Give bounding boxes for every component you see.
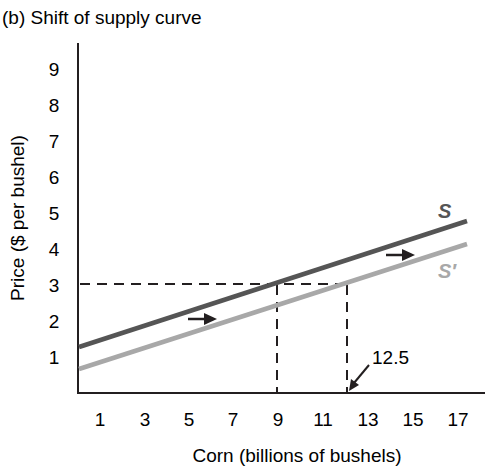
y-tick-6: 6 bbox=[49, 167, 60, 188]
y-tick-labels: 1 2 3 4 5 6 7 8 9 bbox=[49, 59, 60, 368]
shift-arrow-left bbox=[188, 313, 217, 325]
x-axis-label: Corn (billions of bushels) bbox=[192, 445, 401, 466]
y-tick-5: 5 bbox=[49, 203, 60, 224]
arrow-down-left-icon bbox=[349, 379, 359, 391]
y-tick-9: 9 bbox=[49, 59, 60, 80]
shift-arrow-right bbox=[386, 249, 415, 261]
x-tick-17: 17 bbox=[447, 409, 468, 430]
s-prime-curve-label: S′ bbox=[438, 260, 457, 282]
x-tick-13: 13 bbox=[357, 409, 378, 430]
y-tick-8: 8 bbox=[49, 95, 60, 116]
y-axis-label: Price ($ per bushel) bbox=[7, 135, 28, 301]
y-tick-3: 3 bbox=[49, 275, 60, 296]
y-tick-1: 1 bbox=[49, 347, 60, 368]
x-tick-7: 7 bbox=[228, 409, 239, 430]
supply-shift-chart: (b) Shift of supply curve Price ($ per b… bbox=[0, 0, 491, 475]
x-tick-11: 11 bbox=[313, 409, 333, 430]
annotation-12-5: 12.5 bbox=[372, 347, 409, 368]
y-tick-4: 4 bbox=[49, 239, 60, 260]
x-tick-1: 1 bbox=[95, 409, 106, 430]
y-tick-2: 2 bbox=[49, 311, 60, 332]
y-tick-7: 7 bbox=[49, 131, 60, 152]
x-tick-15: 15 bbox=[402, 409, 423, 430]
x-tick-labels: 1 3 5 7 9 11 13 15 17 bbox=[95, 409, 469, 430]
x-tick-5: 5 bbox=[184, 409, 195, 430]
x-tick-3: 3 bbox=[140, 409, 151, 430]
reference-lines bbox=[80, 284, 347, 392]
x-tick-9: 9 bbox=[273, 409, 284, 430]
s-curve-label: S bbox=[438, 200, 452, 222]
annotation-pointer bbox=[349, 365, 369, 391]
chart-title: (b) Shift of supply curve bbox=[2, 7, 202, 28]
